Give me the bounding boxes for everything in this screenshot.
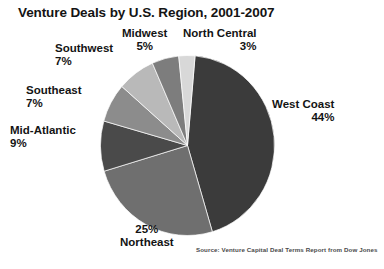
pie-graphic bbox=[99, 54, 277, 238]
slice-label-southeast: Southeast 7% bbox=[26, 84, 82, 109]
slice-label-midwest-value: 5% bbox=[122, 40, 167, 53]
slice-label-northeast: 25% Northeast bbox=[120, 223, 174, 248]
slice-label-southwest: Southwest 7% bbox=[55, 42, 113, 67]
slice-label-north-central: North Central 3% bbox=[183, 27, 256, 52]
slice-label-northeast-name: Northeast bbox=[120, 236, 174, 249]
source-note: Source: Venture Capital Deal Terms Repor… bbox=[196, 246, 378, 253]
slice-label-north-central-value: 3% bbox=[183, 40, 256, 53]
pie-chart-figure: Venture Deals by U.S. Region, 2001-2007 … bbox=[0, 0, 384, 269]
slice-label-southwest-value: 7% bbox=[55, 55, 113, 68]
slice-label-southwest-name: Southwest bbox=[55, 42, 113, 54]
slice-label-northeast-value: 25% bbox=[135, 223, 158, 235]
slice-label-west-coast-name: West Coast bbox=[272, 98, 334, 110]
slice-label-west-coast-value: 44% bbox=[272, 111, 334, 124]
pie-svg bbox=[99, 54, 277, 238]
pie-slice-group bbox=[101, 55, 275, 235]
slice-label-midwest: Midwest 5% bbox=[122, 27, 167, 52]
chart-title: Venture Deals by U.S. Region, 2001-2007 bbox=[18, 5, 274, 20]
slice-label-southeast-value: 7% bbox=[26, 97, 82, 110]
slice-label-mid-atlantic: Mid-Atlantic 9% bbox=[10, 124, 76, 149]
slice-label-mid-atlantic-value: 9% bbox=[10, 137, 76, 150]
slice-label-north-central-name: North Central bbox=[183, 27, 256, 39]
slice-label-west-coast: West Coast 44% bbox=[272, 98, 334, 123]
slice-label-mid-atlantic-name: Mid-Atlantic bbox=[10, 124, 76, 136]
slice-label-southeast-name: Southeast bbox=[26, 84, 82, 96]
slice-label-midwest-name: Midwest bbox=[122, 27, 167, 39]
